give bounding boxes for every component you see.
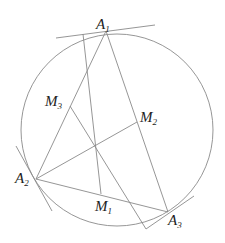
label-m2: M2: [139, 109, 158, 127]
label-a2: A2: [14, 170, 29, 188]
label-a1: A1: [95, 16, 110, 34]
median-a2-m2: [36, 122, 137, 179]
label-a3: A3: [167, 212, 182, 230]
label-m1: M1: [94, 198, 112, 216]
geometry-diagram: A1 A2 A3 M1 M2 M3: [0, 0, 225, 243]
side-a1-a3: [106, 31, 168, 212]
line-tangent-a1-to-m1: [83, 34, 101, 194]
label-m3: M3: [44, 93, 63, 111]
